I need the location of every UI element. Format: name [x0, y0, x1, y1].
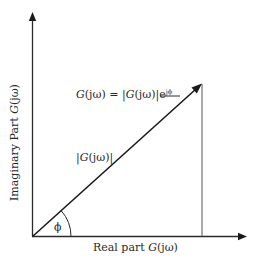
- angle-label: ϕ: [54, 221, 62, 234]
- eq-lhs-func: G: [76, 88, 85, 101]
- angle-arc: [61, 211, 71, 237]
- real-axis: [32, 233, 247, 240]
- y-axis-arrowhead-icon: [29, 12, 36, 21]
- y-label-func: G: [8, 105, 21, 114]
- eq-lhs-arg: (jω): [85, 88, 106, 101]
- mag-arg: (jω): [89, 151, 110, 164]
- eq-exponent: jϕ: [165, 88, 173, 96]
- x-label-prefix: Real part: [93, 241, 148, 254]
- y-label-prefix: Imaginary Part: [8, 114, 21, 201]
- magnitude-label: |G(jω)|: [76, 151, 113, 165]
- eq-rhs-func: G: [126, 88, 135, 101]
- phasor-equation-label: G(jω) = |G(jω)|ejϕ: [76, 88, 173, 103]
- imaginary-axis: [29, 12, 36, 237]
- x-axis-label: Real part G(jω): [93, 241, 178, 254]
- phasor-vector: [33, 84, 203, 237]
- mag-func: G: [80, 151, 89, 164]
- phasor-diagram: G(jω) = |G(jω)|ejϕ |G(jω)| ϕ Real part G…: [0, 0, 258, 261]
- y-axis-label: Imaginary Part G(jω): [8, 84, 21, 201]
- eq-rhs-arg: (jω): [134, 88, 155, 101]
- eq-equals: = |: [106, 88, 126, 102]
- x-axis-arrowhead-icon: [238, 233, 247, 240]
- mag-close: |: [109, 151, 113, 165]
- eq-rhs-close: |e: [155, 88, 165, 102]
- x-label-func: G: [148, 241, 157, 254]
- x-label-arg: (jω): [157, 241, 178, 254]
- y-label-arg: (jω): [8, 84, 21, 105]
